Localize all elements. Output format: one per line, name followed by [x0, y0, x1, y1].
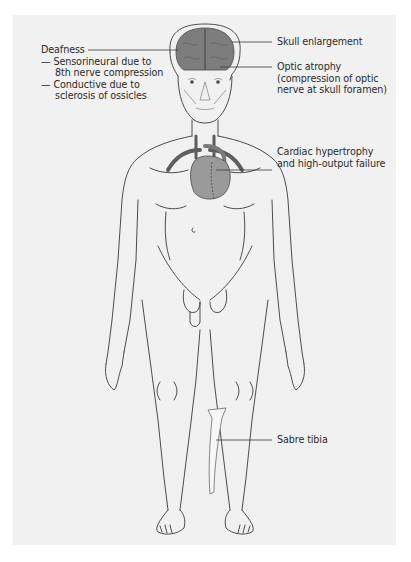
cardiac-hypertrophy-label: Cardiac hypertrophy and high-output fail… — [277, 146, 385, 169]
skull-enlargement-label: Skull enlargement — [277, 36, 363, 48]
sabre-tibia-bone — [208, 408, 226, 494]
right-leg-outline — [242, 300, 268, 510]
sabre-tibia-label: Sabre tibia — [277, 434, 328, 446]
deafness-item-sensorineural: — Sensorineural due to — [41, 56, 163, 68]
right-foot — [225, 510, 253, 534]
optic-atrophy-label: Optic atrophy (compression of optic nerv… — [277, 61, 387, 96]
deafness-title: Deafness — [41, 44, 163, 56]
deafness-label: Deafness — Sensorineural due to 8th nerv… — [41, 44, 163, 102]
deafness-item-conductive: — Conductive due to — [41, 79, 163, 91]
left-leg-outline — [142, 300, 168, 510]
torso-outline — [106, 136, 192, 364]
left-hand — [105, 352, 124, 390]
heart — [191, 156, 231, 199]
left-foot — [157, 510, 185, 534]
right-hand — [286, 352, 305, 390]
